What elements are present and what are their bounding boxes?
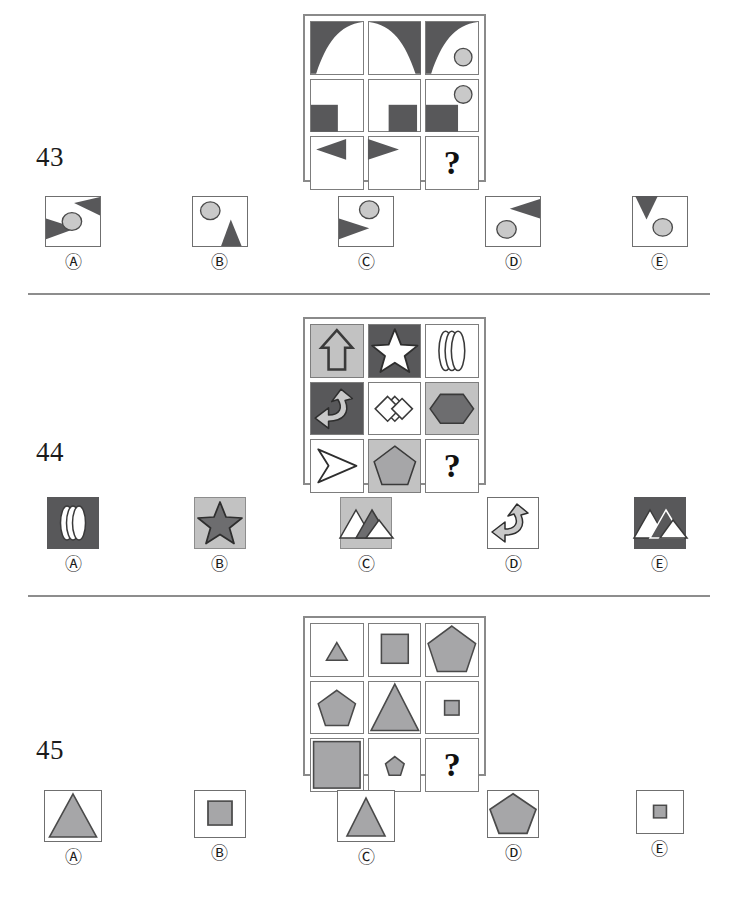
matrix-cell-r3c2[interactable] xyxy=(368,439,422,493)
option-43-a[interactable]: Ⓐ xyxy=(0,196,147,271)
option-43-c[interactable]: Ⓒ xyxy=(293,196,440,271)
option-box-b[interactable] xyxy=(194,497,246,549)
matrix-cell-r2c3[interactable] xyxy=(425,681,479,735)
matrix-cell-r2c2[interactable] xyxy=(368,382,422,436)
option-43-e[interactable]: Ⓔ xyxy=(586,196,733,271)
option-box-d[interactable] xyxy=(487,497,539,549)
option-label-d: Ⓓ xyxy=(505,556,522,573)
matrix-cell-r1c3[interactable] xyxy=(425,324,479,378)
matrix-45: ? xyxy=(303,616,486,776)
option-44-d[interactable]: Ⓓ xyxy=(440,497,587,573)
matrix-cell-r1c2[interactable] xyxy=(368,623,422,677)
matrix-cell-r2c2[interactable] xyxy=(368,681,422,735)
option-label-d: Ⓓ xyxy=(505,254,522,271)
test-page: 43 xyxy=(0,0,733,919)
question-block-45: 45 xyxy=(0,600,733,919)
question-block-43: 43 xyxy=(0,0,733,295)
matrix-cell-r3c1[interactable] xyxy=(310,738,364,792)
option-box-e[interactable] xyxy=(632,196,688,247)
option-45-e[interactable]: Ⓔ xyxy=(586,790,733,866)
matrix-cell-r1c3[interactable] xyxy=(425,21,479,75)
option-box-c[interactable] xyxy=(340,497,392,549)
option-box-d[interactable] xyxy=(487,790,539,838)
option-box-e[interactable] xyxy=(634,497,686,549)
matrix-cell-r3c2[interactable] xyxy=(368,738,422,792)
option-43-d[interactable]: Ⓓ xyxy=(440,196,587,271)
matrix-cell-r1c1[interactable] xyxy=(310,21,364,75)
matrix-cell-r2c1[interactable] xyxy=(310,681,364,735)
matrix-cell-r3c3[interactable]: ? xyxy=(425,738,479,792)
option-label-e: Ⓔ xyxy=(651,841,668,858)
question-block-44: 44 xyxy=(0,297,733,597)
option-label-e: Ⓔ xyxy=(651,556,668,573)
matrix-cell-r1c1[interactable] xyxy=(310,623,364,677)
matrix-cell-r2c1[interactable] xyxy=(310,382,364,436)
option-box-b[interactable] xyxy=(194,790,246,838)
matrix-43: ? xyxy=(303,14,486,182)
matrix-cell-r2c3[interactable] xyxy=(425,79,479,133)
question-mark-45: ? xyxy=(426,739,478,791)
matrix-cell-r1c2[interactable] xyxy=(368,21,422,75)
question-number-45: 45 xyxy=(36,735,64,766)
option-45-b[interactable]: Ⓑ xyxy=(147,790,294,866)
option-label-a: Ⓐ xyxy=(65,556,82,573)
option-44-b[interactable]: Ⓑ xyxy=(147,497,294,573)
option-label-c: Ⓒ xyxy=(358,849,375,866)
option-45-a[interactable]: Ⓐ xyxy=(0,790,147,866)
option-box-c[interactable] xyxy=(337,790,395,842)
option-box-a[interactable] xyxy=(47,497,99,549)
option-label-b: Ⓑ xyxy=(211,254,228,271)
option-label-b: Ⓑ xyxy=(211,556,228,573)
option-box-c[interactable] xyxy=(338,196,394,247)
option-box-a[interactable] xyxy=(44,790,102,842)
option-label-d: Ⓓ xyxy=(505,845,522,862)
matrix-cell-r2c1[interactable] xyxy=(310,79,364,133)
options-row-43: Ⓐ Ⓑ Ⓒ xyxy=(0,196,733,271)
option-label-c: Ⓒ xyxy=(358,556,375,573)
question-mark-44: ? xyxy=(426,440,478,492)
section-divider-1 xyxy=(28,293,710,295)
question-mark-43: ? xyxy=(426,137,478,189)
option-box-e[interactable] xyxy=(636,790,684,834)
option-label-a: Ⓐ xyxy=(65,849,82,866)
option-label-e: Ⓔ xyxy=(651,254,668,271)
question-number-43: 43 xyxy=(36,142,64,173)
matrix-cell-r2c3[interactable] xyxy=(425,382,479,436)
options-row-45: Ⓐ Ⓑ Ⓒ xyxy=(0,790,733,866)
options-row-44: Ⓐ Ⓑ Ⓒ xyxy=(0,497,733,573)
matrix-44: ? xyxy=(303,317,486,485)
matrix-cell-r1c3[interactable] xyxy=(425,623,479,677)
matrix-cell-r2c2[interactable] xyxy=(368,79,422,133)
option-43-b[interactable]: Ⓑ xyxy=(147,196,294,271)
option-label-c: Ⓒ xyxy=(358,254,375,271)
matrix-cell-r3c1[interactable] xyxy=(310,136,364,190)
matrix-cell-r3c3[interactable]: ? xyxy=(425,136,479,190)
option-44-e[interactable]: Ⓔ xyxy=(586,497,733,573)
option-45-d[interactable]: Ⓓ xyxy=(440,790,587,866)
matrix-cell-r3c2[interactable] xyxy=(368,136,422,190)
option-box-b[interactable] xyxy=(192,196,248,247)
matrix-cell-r3c3[interactable]: ? xyxy=(425,439,479,493)
question-number-44: 44 xyxy=(36,437,64,468)
option-label-b: Ⓑ xyxy=(211,845,228,862)
matrix-cell-r3c1[interactable] xyxy=(310,439,364,493)
option-label-a: Ⓐ xyxy=(65,254,82,271)
option-44-c[interactable]: Ⓒ xyxy=(293,497,440,573)
option-box-a[interactable] xyxy=(45,196,101,247)
section-divider-2 xyxy=(28,595,710,597)
matrix-cell-r1c1[interactable] xyxy=(310,324,364,378)
option-box-d[interactable] xyxy=(485,196,541,247)
option-44-a[interactable]: Ⓐ xyxy=(0,497,147,573)
matrix-cell-r1c2[interactable] xyxy=(368,324,422,378)
option-45-c[interactable]: Ⓒ xyxy=(293,790,440,866)
